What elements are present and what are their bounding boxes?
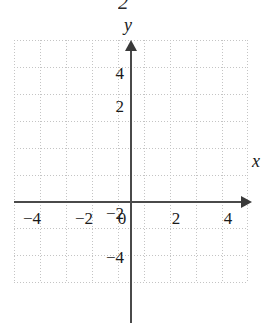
y-tick-label: −2 xyxy=(102,205,124,222)
gridline-vertical xyxy=(144,40,145,283)
x-axis-line xyxy=(14,201,243,203)
x-tick-label: −2 xyxy=(75,210,93,227)
y-axis-arrow-icon xyxy=(125,40,137,51)
x-axis-arrow-icon xyxy=(241,196,252,208)
plot-area: −4 −2 0 2 4 4 2 −2 −4 xyxy=(14,40,248,283)
y-tick-label: 2 xyxy=(110,98,124,115)
gridline-vertical xyxy=(170,40,171,283)
gridline-vertical xyxy=(222,40,223,283)
gridline-vertical xyxy=(40,40,41,283)
y-tick-label: −4 xyxy=(102,249,124,266)
gridline-vertical xyxy=(247,40,248,283)
gridline-vertical xyxy=(92,40,93,283)
x-tick-label: 2 xyxy=(172,210,181,227)
y-axis-label: y xyxy=(124,16,132,34)
x-axis-label: x xyxy=(252,152,260,170)
x-tick-label: −4 xyxy=(23,210,41,227)
x-tick-label: 4 xyxy=(224,210,233,227)
gridline-vertical xyxy=(196,40,197,283)
y-axis-line xyxy=(130,49,132,323)
cropped-numeral-fragment: 2 xyxy=(118,0,144,13)
y-tick-label: 4 xyxy=(110,65,124,82)
gridline-vertical xyxy=(14,40,15,283)
gridline-vertical xyxy=(66,40,67,283)
cropped-numeral-text: 2 xyxy=(118,0,129,13)
